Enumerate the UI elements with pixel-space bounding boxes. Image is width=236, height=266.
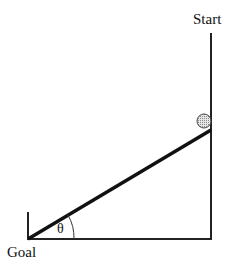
goal-label: Goal [7, 245, 36, 260]
ball [197, 114, 211, 128]
ramp-line [28, 130, 211, 239]
angle-arc [68, 215, 74, 239]
start-label: Start [193, 12, 221, 27]
ramp-diagram [0, 0, 236, 266]
theta-label: θ [57, 222, 64, 236]
